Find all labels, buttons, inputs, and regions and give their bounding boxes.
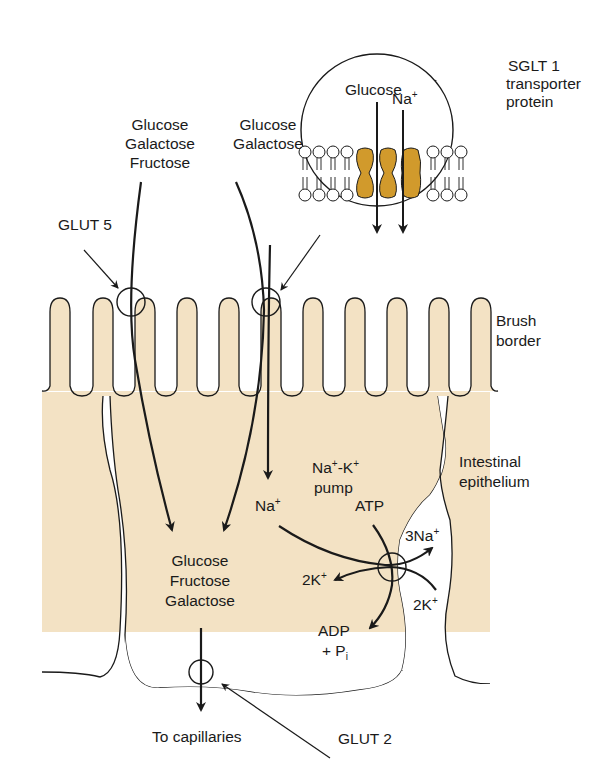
- apical-sugar-label-2: Galactose: [125, 135, 195, 152]
- adp-label: ADP: [318, 622, 350, 639]
- to-capillaries-label: To capillaries: [152, 728, 242, 745]
- apical-sugar-label-3: Fructose: [130, 154, 190, 171]
- glut5-label: GLUT 5: [58, 216, 112, 233]
- cell-sugar-label-1: Glucose: [172, 552, 229, 569]
- epithelium-cells: [42, 298, 594, 777]
- pump-label-2: pump: [314, 479, 353, 496]
- sglt1-label-3: protein: [506, 93, 553, 110]
- pi-label: + Pi: [322, 642, 348, 662]
- sglt1-label-2: transporter: [506, 75, 581, 92]
- atp-label: ATP: [355, 497, 384, 514]
- brush-border-label-1: Brush: [496, 312, 537, 329]
- apical-sugar-label-1: Glucose: [132, 116, 189, 133]
- sglt1-label-1: SGLT 1: [508, 57, 560, 74]
- cell-sugar-label-2: Fructose: [170, 572, 230, 589]
- inset-pointer: [281, 235, 320, 290]
- glut5-pointer: [84, 250, 118, 288]
- sglt-sugar-label-1: Glucose: [240, 116, 297, 133]
- cell-sugar-label-3: Galactose: [165, 592, 235, 609]
- protein-subunit-3: [401, 148, 420, 198]
- glut2-label: GLUT 2: [338, 730, 392, 747]
- epithelium-label-1: Intestinal: [459, 453, 521, 470]
- diagram-canvas: Glucose Galactose Fructose Glucose Galac…: [0, 0, 594, 777]
- sglt-sugar-label-2: Galactose: [233, 135, 303, 152]
- epithelium-label-2: epithelium: [459, 473, 530, 490]
- brush-border-label-2: border: [496, 332, 541, 349]
